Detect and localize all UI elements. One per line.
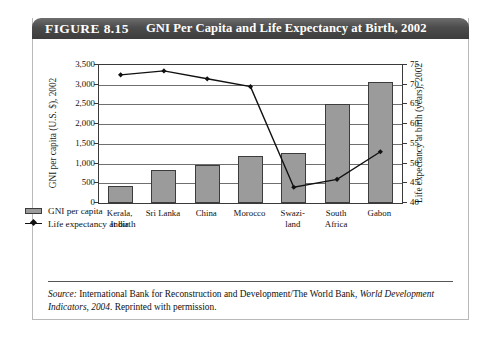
figure-title: GNI Per Capita and Life Expectancy at Bi… xyxy=(129,21,427,36)
line-series xyxy=(99,65,402,203)
plot-area xyxy=(98,64,403,204)
figure-header-bar: FIGURE 8.15 GNI Per Capita and Life Expe… xyxy=(32,18,469,39)
y-tick-label-left: 3,500 xyxy=(51,60,95,69)
y-tick-mark-right xyxy=(403,163,407,164)
source-prefix: Source: xyxy=(48,289,77,299)
y-tick-mark-right xyxy=(403,202,407,203)
y-tick-label-right: 45 xyxy=(410,178,440,187)
line-marker xyxy=(161,68,166,73)
legend-label-life-expectancy: Life expectancy at birth xyxy=(48,219,136,229)
y-tick-label-right: 40 xyxy=(410,198,440,207)
line-marker xyxy=(248,84,253,89)
source-text-tail: . Reprinted with permission. xyxy=(110,302,217,312)
bar-swatch-icon xyxy=(25,208,42,214)
x-axis-category-labels: Kerala,IndiaSri LankaChinaMoroccoSwazi-l… xyxy=(98,208,403,240)
y-tick-label-left: 3,000 xyxy=(51,80,95,89)
y-tick-mark-right xyxy=(403,123,407,124)
y-tick-label-right: 75 xyxy=(410,60,440,69)
y-tick-label-right: 65 xyxy=(410,99,440,108)
y-tick-label-left: 2,000 xyxy=(51,119,95,128)
y-tick-label-left: 2,500 xyxy=(51,99,95,108)
legend-item-gni: GNI per capita xyxy=(25,204,136,217)
y-tick-label-left: 1,500 xyxy=(51,139,95,148)
figure-number: FIGURE 8.15 xyxy=(32,21,129,37)
legend: GNI per capita Life expectancy at birth xyxy=(25,204,136,230)
y-tick-label-right: 60 xyxy=(410,119,440,128)
y-tick-mark-right xyxy=(403,103,407,104)
line-marker xyxy=(291,185,296,190)
source-divider xyxy=(48,281,453,282)
y-tick-label-right: 70 xyxy=(410,80,440,89)
legend-label-gni: GNI per capita xyxy=(48,206,103,216)
figure-page: FIGURE 8.15 GNI Per Capita and Life Expe… xyxy=(0,0,501,347)
y-tick-mark-right xyxy=(403,182,407,183)
y-tick-label-left: 500 xyxy=(51,178,95,187)
source-note: Source: International Bank for Reconstru… xyxy=(48,288,456,313)
line-marker xyxy=(205,76,210,81)
line-marker xyxy=(118,72,123,77)
y-tick-mark-right xyxy=(403,84,407,85)
y-tick-label-right: 50 xyxy=(410,159,440,168)
y-tick-label-right: 55 xyxy=(410,139,440,148)
y-tick-mark-right xyxy=(403,143,407,144)
x-category-label: Gabon xyxy=(352,208,407,219)
legend-item-life-expectancy: Life expectancy at birth xyxy=(25,217,136,230)
y-tick-label-left: 1,000 xyxy=(51,159,95,168)
line-diamond-swatch-icon xyxy=(25,220,42,227)
y-tick-mark-right xyxy=(403,64,407,65)
chart: GNI per capita (U.S. $), 2002 Life expec… xyxy=(33,40,468,272)
source-text-main: International Bank for Reconstruction an… xyxy=(77,289,360,299)
